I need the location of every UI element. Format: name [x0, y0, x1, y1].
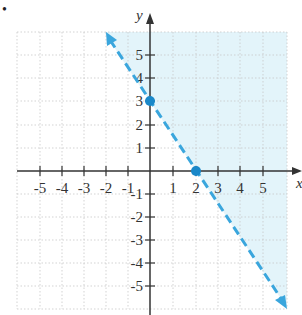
- svg-text:5: 5: [259, 180, 267, 196]
- svg-text:-3: -3: [78, 180, 91, 196]
- svg-text:-4: -4: [56, 180, 69, 196]
- svg-text:4: 4: [236, 180, 244, 196]
- y-axis-label: y: [134, 7, 143, 23]
- point-y-intercept: [145, 96, 155, 106]
- svg-text:1: 1: [136, 140, 144, 156]
- svg-text:-3: -3: [131, 232, 144, 248]
- svg-text:1: 1: [169, 180, 177, 196]
- svg-text:-2: -2: [100, 180, 113, 196]
- svg-text:-5: -5: [34, 180, 47, 196]
- svg-text:-1: -1: [131, 186, 144, 202]
- bullet-marker: •: [2, 2, 7, 17]
- svg-text:3: 3: [214, 180, 222, 196]
- svg-text:-4: -4: [131, 255, 144, 271]
- x-axis-label: x: [295, 175, 302, 191]
- svg-text:5: 5: [136, 47, 144, 63]
- coordinate-plane: -5 -4 -3 -2 -1 1 2 3 4 5 5 4 3 2 1 -1 -2…: [0, 0, 302, 315]
- svg-text:2: 2: [136, 117, 144, 133]
- svg-text:-5: -5: [131, 278, 144, 294]
- svg-text:-2: -2: [131, 209, 144, 225]
- svg-text:3: 3: [136, 93, 144, 109]
- svg-text:2: 2: [192, 180, 200, 196]
- point-x-intercept: [191, 166, 201, 176]
- arrow-down-right-icon: [275, 295, 287, 309]
